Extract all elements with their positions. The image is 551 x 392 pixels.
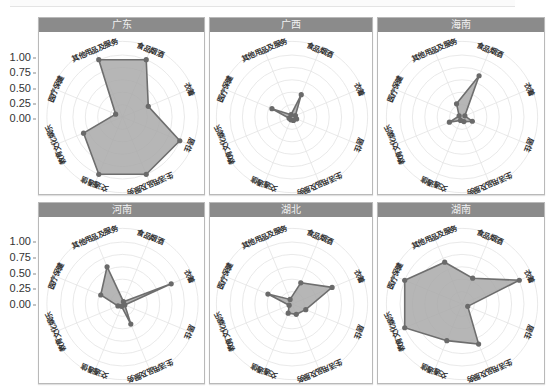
data-point	[96, 172, 101, 177]
axis-label: 教育文化娱乐	[382, 123, 408, 167]
axis-label: 交通通信	[248, 361, 279, 381]
data-point	[329, 285, 334, 290]
axis-label: 居住	[182, 137, 197, 155]
axis-label: 其他用品及服务	[240, 222, 290, 250]
axis-label: 居住	[352, 137, 367, 155]
data-point	[470, 276, 475, 281]
data-point	[465, 304, 470, 309]
y-tick: 0.75	[10, 252, 36, 263]
data-point	[81, 131, 86, 136]
data-point	[458, 118, 463, 123]
axis-label: 生活用品及服务	[294, 357, 344, 383]
data-point	[144, 172, 149, 177]
data-point	[457, 113, 462, 118]
axis-label: 生活用品及服务	[125, 357, 175, 383]
axis-label: 教育文化娱乐	[212, 123, 238, 167]
data-point	[96, 57, 101, 62]
y-tick: 0.50	[10, 268, 36, 279]
axis-label: 食品烟酒	[475, 227, 506, 247]
radar-panel-hubei: 湖北 食品烟酒衣着居住生活用品及服务交通通信教育文化娱乐医疗保健其他用品及服务	[209, 202, 373, 384]
panel-title: 河南	[39, 203, 204, 217]
axis-label: 医疗保健	[385, 260, 405, 291]
data-point	[447, 120, 452, 125]
data-point	[444, 338, 449, 343]
radar-chart: 食品烟酒衣着居住生活用品及服务交通通信教育文化娱乐医疗保健其他用品及服务	[39, 32, 204, 194]
radar-panel-guangxi: 广西 食品烟酒衣着居住生活用品及服务交通通信教育文化娱乐医疗保健其他用品及服务	[209, 17, 373, 195]
panel-title: 广西	[210, 18, 372, 32]
data-point	[286, 311, 291, 316]
axis-label: 教育文化娱乐	[382, 310, 408, 354]
data-point	[298, 280, 303, 285]
axis-label: 交通通信	[418, 361, 449, 381]
axis-label: 教育文化娱乐	[42, 123, 68, 167]
data-point	[476, 73, 481, 78]
axis-label: 医疗保健	[45, 73, 65, 104]
data-point	[303, 307, 308, 312]
radar-chart: 食品烟酒衣着居住生活用品及服务交通通信教育文化娱乐医疗保健其他用品及服务	[378, 32, 544, 194]
data-point	[288, 112, 293, 117]
data-point	[517, 278, 522, 283]
data-point	[144, 57, 149, 62]
axis-label: 交通通信	[248, 174, 279, 194]
axis-label: 居住	[182, 324, 197, 342]
radar-panel-hainan: 海南 食品烟酒衣着居住生活用品及服务交通通信教育文化娱乐医疗保健其他用品及服务	[377, 17, 545, 195]
data-point	[98, 292, 103, 297]
data-point	[294, 312, 299, 317]
radar-chart: 食品烟酒衣着居住生活用品及服务交通通信教育文化娱乐医疗保健其他用品及服务	[210, 217, 372, 383]
panel-title: 海南	[378, 18, 544, 32]
radar-chart: 食品烟酒衣着居住生活用品及服务交通通信教育文化娱乐医疗保健其他用品及服务	[210, 32, 372, 194]
axis-label: 生活用品及服务	[464, 170, 514, 194]
data-point	[115, 303, 120, 308]
axis-label: 医疗保健	[45, 260, 65, 291]
axis-label: 医疗保健	[215, 73, 235, 104]
data-point	[146, 104, 151, 109]
axis-label: 居住	[522, 324, 537, 342]
radar-panel-henan: 河南 食品烟酒衣着居住生活用品及服务交通通信教育文化娱乐医疗保健其他用品及服务	[38, 202, 205, 384]
axis-label: 交通通信	[418, 174, 449, 194]
axis-label: 食品烟酒	[475, 40, 506, 60]
y-tick: 0.00	[10, 299, 36, 310]
axis-label: 食品烟酒	[305, 40, 336, 60]
axis-label: 食品烟酒	[136, 40, 167, 60]
axis-label: 居住	[522, 137, 537, 155]
y-axis-row-2: 1.00 0.75 0.50 0.25 0.00	[0, 0, 36, 392]
axis-label: 医疗保健	[215, 260, 235, 291]
axis-label: 生活用品及服务	[464, 357, 514, 383]
axis-label: 教育文化娱乐	[42, 310, 68, 354]
axis-label: 交通通信	[79, 361, 110, 381]
axis-label: 食品烟酒	[305, 227, 336, 247]
data-point	[462, 113, 467, 118]
axis-label: 其他用品及服务	[240, 35, 290, 63]
y-tick: 0.25	[10, 283, 36, 294]
data-point	[442, 260, 447, 265]
data-point	[402, 278, 407, 283]
axis-label: 居住	[352, 324, 367, 342]
data-point	[454, 101, 459, 106]
axis-label: 医疗保健	[385, 73, 405, 104]
panel-title: 广东	[39, 18, 204, 32]
data-point	[402, 325, 407, 330]
data-point	[470, 119, 475, 124]
data-point	[177, 138, 182, 143]
radar-polygon	[101, 267, 171, 324]
data-point	[128, 321, 133, 326]
y-tick: 1.00	[10, 236, 36, 247]
data-point	[113, 112, 118, 117]
data-point	[476, 341, 481, 346]
axis-label: 生活用品及服务	[294, 170, 344, 194]
data-point	[265, 291, 270, 296]
axis-label: 其他用品及服务	[410, 222, 460, 250]
radar-chart: 食品烟酒衣着居住生活用品及服务交通通信教育文化娱乐医疗保健其他用品及服务	[39, 217, 204, 383]
data-point	[104, 264, 109, 269]
data-point	[169, 281, 174, 286]
axis-label: 其他用品及服务	[410, 35, 460, 63]
top-bar	[10, 0, 515, 7]
axis-label: 其他用品及服务	[70, 222, 120, 250]
panel-title: 湖南	[378, 203, 544, 217]
panel-title: 湖北	[210, 203, 372, 217]
data-point	[299, 92, 304, 97]
radar-panel-hunan: 湖南 食品烟酒衣着居住生活用品及服务交通通信教育文化娱乐医疗保健其他用品及服务	[377, 202, 545, 384]
axis-label: 教育文化娱乐	[212, 310, 238, 354]
axis-label: 交通通信	[79, 174, 110, 194]
data-point	[287, 303, 292, 308]
